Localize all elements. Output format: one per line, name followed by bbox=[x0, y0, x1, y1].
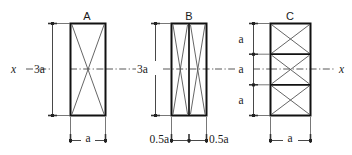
section-b-width-dot-right bbox=[205, 139, 208, 142]
section-b-height-dot-bottom bbox=[154, 114, 157, 117]
figure-canvas: A x 3a a bbox=[0, 0, 352, 155]
section-c-group: C bbox=[235, 10, 345, 144]
section-c-height-label-3: a bbox=[238, 94, 243, 106]
section-c-width-dot-left bbox=[269, 139, 272, 142]
axis-label-right: x bbox=[338, 63, 345, 75]
section-b-group: B 3a bbox=[136, 10, 228, 145]
section-c-width-dot-right bbox=[309, 139, 312, 142]
section-a-height-dot-bottom bbox=[51, 114, 54, 117]
axis-label-left: x bbox=[10, 63, 17, 75]
section-c-width-label: a bbox=[287, 132, 292, 144]
section-c-height-label-1: a bbox=[238, 33, 243, 45]
section-c-height-dot-top bbox=[252, 22, 255, 25]
section-a-width-dot-right bbox=[104, 139, 107, 142]
section-c-height-label-2: a bbox=[238, 63, 243, 75]
section-b-width-dot-mid bbox=[188, 139, 191, 142]
section-b-width-dot-left bbox=[170, 139, 173, 142]
section-c-height-dot-2 bbox=[252, 83, 255, 86]
section-c-height-dot-1 bbox=[252, 53, 255, 56]
section-a-height-label: 3a bbox=[34, 63, 45, 75]
section-a-width-dot-left bbox=[69, 139, 72, 142]
section-b-width-label-right: 0.5a bbox=[209, 133, 228, 145]
section-a-group: A x 3a a bbox=[10, 10, 107, 144]
section-a-width-label: a bbox=[85, 132, 90, 144]
section-b-width-label-left: 0.5a bbox=[150, 133, 169, 145]
section-a-label: A bbox=[83, 10, 91, 22]
section-b-height-label: 3a bbox=[137, 63, 148, 75]
section-c-label: C bbox=[286, 10, 294, 22]
section-c-height-dot-bottom bbox=[252, 114, 255, 117]
section-b-label: B bbox=[185, 10, 192, 22]
section-b-height-dot-top bbox=[154, 22, 157, 25]
section-a-height-dot-top bbox=[51, 22, 54, 25]
engineering-figure: A x 3a a bbox=[0, 0, 352, 155]
